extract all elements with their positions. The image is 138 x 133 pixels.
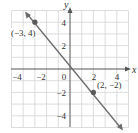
y-tick-label: 4: [62, 18, 67, 28]
y-tick-label: −4: [56, 111, 66, 121]
y-axis-label: y: [63, 0, 69, 10]
x-tick-label: 0: [62, 72, 67, 82]
y-tick-label: 2: [62, 41, 67, 51]
point-neg3-4: [32, 20, 37, 25]
coordinate-plane: x y −4 −2 0 2 4 4 2 −2 −4 (−3, 4) (2, −2…: [0, 0, 138, 133]
y-tick-label: −2: [56, 88, 66, 98]
graph-line: [28, 15, 120, 127]
point-label-2: (2, −2): [97, 80, 122, 90]
point-2-neg2: [91, 90, 96, 95]
point-label-1: (−3, 4): [11, 28, 36, 38]
x-axis-arrow-icon: [125, 67, 131, 72]
x-tick-label: 2: [92, 72, 97, 82]
x-tick-label: −4: [12, 72, 22, 82]
x-tick-label: −2: [36, 72, 46, 82]
x-axis-label: x: [131, 64, 137, 75]
